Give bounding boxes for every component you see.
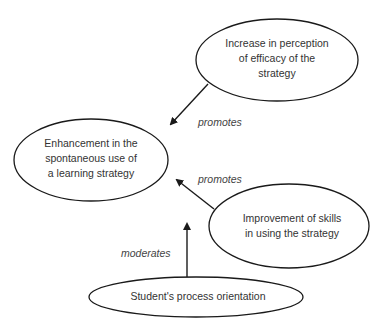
node-efficacy-text: Increase in perception of efficacy of th… (212, 36, 342, 81)
node-text-line: in using the strategy (227, 226, 357, 241)
node-text-line: Improvement of skills (227, 211, 357, 226)
node-enhancement-text: Enhancement in the spontaneous use of a … (28, 136, 154, 181)
node-text-line: a learning strategy (28, 166, 154, 181)
node-orientation-text: Student's process orientation (118, 289, 278, 304)
node-text-line: Student's process orientation (118, 289, 278, 304)
edge-label-promotes-efficacy: promotes (198, 116, 242, 128)
node-text-line: Increase in perception (212, 36, 342, 51)
edge-label-moderates: moderates (121, 247, 171, 259)
node-skills-text: Improvement of skills in using the strat… (227, 211, 357, 241)
node-text-line: spontaneous use of (28, 151, 154, 166)
node-text-line: of efficacy of the (212, 51, 342, 66)
diagram-canvas: Enhancement in the spontaneous use of a … (0, 0, 384, 331)
node-text-line: strategy (212, 66, 342, 81)
node-text-line: Enhancement in the (28, 136, 154, 151)
edge-label-promotes-skills: promotes (198, 173, 242, 185)
